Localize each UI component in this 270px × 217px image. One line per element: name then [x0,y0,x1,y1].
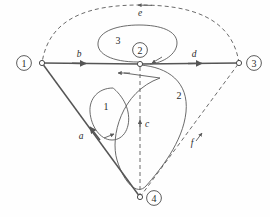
node-badge-1-label: 1 [22,58,27,69]
edge-a-path [42,63,140,197]
node-point-1[interactable] [39,60,44,65]
edge-f-path [140,63,239,197]
edge-label-e: e [138,8,142,18]
loop-label-2: 2 [177,90,182,101]
node-badge-3[interactable]: 3 [247,56,262,71]
edge-d-group [140,63,239,64]
edge-label-c: c [145,119,150,129]
loop-1-group [90,88,129,140]
loop-1-path [90,88,129,140]
node-badge-3-label: 3 [252,58,257,69]
edge-a-group [42,63,140,197]
edge-f-group [140,63,239,197]
edge-b-path [42,63,140,64]
node-badge-4[interactable]: 4 [147,191,162,206]
node-point-2[interactable] [137,61,142,66]
node-point-4[interactable] [137,194,142,199]
node-point-3[interactable] [236,60,241,65]
edge-f-arrowhead [196,133,202,141]
node-badge-2[interactable]: 2 [133,43,148,58]
edge-label-f: f [191,138,195,148]
edge-label-d: d [192,49,197,59]
graph-canvas: 1 2 3 4 a b c d e f 1 2 3 [0,0,270,217]
loop-2-group [115,65,186,189]
edge-b-group [42,63,140,64]
loop-1-arrowhead [104,134,114,138]
graph-diagram-figure: 1 2 3 4 a b c d e f 1 2 3 [0,0,270,217]
node-badge-4-label: 4 [152,193,157,204]
node-badge-2-label: 2 [138,45,143,56]
edge-label-a: a [79,131,84,141]
node-badge-1[interactable]: 1 [17,56,32,71]
loop-label-1: 1 [104,101,109,112]
loop-label-3: 3 [116,35,121,46]
loop-2-path [115,65,186,189]
edge-label-b: b [77,49,82,59]
